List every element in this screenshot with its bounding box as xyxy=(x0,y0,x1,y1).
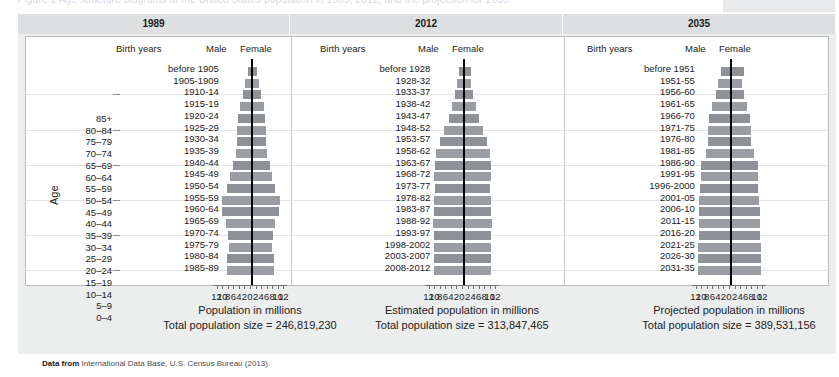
age-label: 65–69 xyxy=(86,161,112,171)
birth-year-label: 2011-15 xyxy=(661,216,695,226)
bar-female xyxy=(251,137,266,146)
birth-year-label: 1951-55 xyxy=(660,76,695,86)
x-axis-tick xyxy=(261,285,262,289)
x-axis-title: Estimated population in millions xyxy=(322,304,602,316)
birth-year-label: 1968-72 xyxy=(395,169,430,179)
x-axis-tick xyxy=(701,285,702,289)
birth-year-label: 2026-30 xyxy=(660,251,695,261)
x-axis-tick xyxy=(484,285,485,289)
bar-male xyxy=(718,79,730,88)
bar-male xyxy=(435,184,463,193)
bar-female xyxy=(730,102,747,111)
bar-male xyxy=(698,243,730,252)
bar-female xyxy=(463,266,491,275)
birth-year-label: 1940-44 xyxy=(184,158,219,168)
bar-male xyxy=(238,114,251,123)
x-axis-tick xyxy=(451,285,452,289)
bar-male xyxy=(712,102,730,111)
bar-female xyxy=(730,196,759,205)
birth-year-label: 1985-89 xyxy=(184,263,219,273)
age-tick-mark xyxy=(113,94,120,95)
x-axis-tick xyxy=(434,285,435,289)
bar-male xyxy=(233,161,251,170)
x-axis-tick-label: 12 xyxy=(485,291,505,302)
age-label: 75–79 xyxy=(86,137,112,147)
bar-female xyxy=(251,126,266,135)
bar-female xyxy=(730,243,761,252)
bar-female xyxy=(730,254,761,263)
panel-year-2012: 2012 xyxy=(290,14,563,34)
bar-male xyxy=(433,219,463,228)
bar-male xyxy=(699,231,730,240)
birth-year-label: 1915-19 xyxy=(184,99,219,109)
bar-male xyxy=(227,254,251,263)
birth-year-label: 2006-10 xyxy=(660,204,695,214)
col-header-birth-years: Birth years xyxy=(320,43,365,54)
bar-male xyxy=(229,243,251,252)
x-axis-tick xyxy=(462,285,463,289)
birth-year-label: 1988-92 xyxy=(395,216,430,226)
top-caption-strip: Figure 1 Age structure diagrams of the U… xyxy=(0,0,839,13)
x-axis-tick xyxy=(468,285,469,289)
bar-male xyxy=(435,161,463,170)
birth-year-label: 1981-85 xyxy=(660,146,695,156)
x-axis-tick xyxy=(228,285,229,289)
total-population-label: Total population size = 389,531,156 xyxy=(579,319,839,331)
col-header-female: Female xyxy=(719,43,751,54)
bar-male xyxy=(434,207,463,216)
x-axis-tick xyxy=(244,285,245,289)
birth-year-label: 1961-65 xyxy=(660,99,695,109)
col-header-male: Male xyxy=(206,43,227,54)
x-axis-tick xyxy=(495,285,496,289)
bar-male xyxy=(230,172,251,181)
bar-female xyxy=(251,231,273,240)
age-tick-mark xyxy=(113,165,120,166)
x-axis-tick xyxy=(751,285,752,289)
bar-male xyxy=(227,184,251,193)
bar-male xyxy=(699,219,730,228)
bar-female xyxy=(730,207,760,216)
col-header-female: Female xyxy=(452,43,484,54)
bar-male xyxy=(434,231,463,240)
x-axis-tick xyxy=(278,285,279,289)
birth-year-label: 1970-74 xyxy=(184,228,219,238)
birth-year-label: 1975-79 xyxy=(184,240,219,250)
bar-female xyxy=(463,254,491,263)
birth-year-label: before 1951 xyxy=(644,64,695,74)
x-axis-tick xyxy=(267,285,268,289)
center-axis-line xyxy=(463,59,465,285)
age-tick-mark xyxy=(113,200,120,201)
bar-female xyxy=(251,161,270,170)
bar-female xyxy=(463,196,491,205)
figure-plate: 1989 2012 2035 Age 85+80–8475–7970–7465–… xyxy=(18,14,836,354)
bar-female xyxy=(463,184,490,193)
x-axis-tick xyxy=(718,285,719,289)
bar-male xyxy=(716,90,730,99)
bar-female xyxy=(251,102,264,111)
bar-female xyxy=(730,161,758,170)
birth-year-label: 1948-52 xyxy=(395,123,430,133)
bar-male xyxy=(698,254,730,263)
bar-male xyxy=(226,219,251,228)
bar-female xyxy=(251,254,274,263)
age-label: 80–84 xyxy=(86,126,112,136)
birth-year-label: 1991-95 xyxy=(660,169,695,179)
source-prefix: Data from xyxy=(42,359,79,368)
birth-year-label: 1998-2002 xyxy=(385,240,430,250)
birth-year-label: before 1905 xyxy=(168,64,219,74)
x-axis-tick xyxy=(239,285,240,289)
center-axis-line xyxy=(251,59,253,285)
birth-year-label: 1950-54 xyxy=(184,181,219,191)
bar-male xyxy=(701,161,730,170)
age-tick-labels: 85+80–8475–7970–7465–6960–6455–5950–5445… xyxy=(56,87,112,327)
x-axis-tick xyxy=(272,285,273,289)
age-label: 25–29 xyxy=(86,254,112,264)
age-label: 20–24 xyxy=(86,266,112,276)
birth-year-label: 1996-2000 xyxy=(649,181,694,191)
age-label: 50–54 xyxy=(86,196,112,206)
bar-male xyxy=(243,90,251,99)
x-axis-tick xyxy=(283,285,284,289)
bar-female xyxy=(251,266,274,275)
bar-male xyxy=(452,102,463,111)
birth-year-label: 2021-25 xyxy=(660,240,695,250)
